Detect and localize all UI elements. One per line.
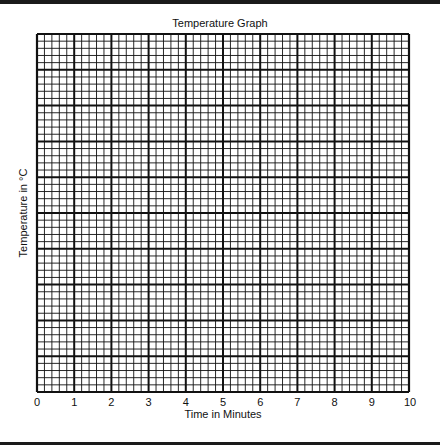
graph-paper-grid [0,0,440,448]
bottom-border-rule [0,442,440,445]
x-tick-label: 6 [257,396,263,408]
x-tick-label: 9 [369,396,375,408]
x-axis-label: Time in Minutes [0,408,440,420]
x-tick-label: 8 [332,396,338,408]
x-tick-label: 0 [34,396,40,408]
x-tick-label: 4 [183,396,189,408]
x-tick-label: 5 [220,396,226,408]
x-tick-label: 7 [294,396,300,408]
x-tick-label: 3 [146,396,152,408]
x-tick-label: 1 [71,396,77,408]
x-tick-label: 10 [404,396,416,408]
x-tick-label: 2 [108,396,114,408]
